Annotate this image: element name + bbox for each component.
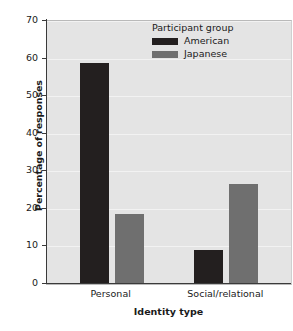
legend-swatch-japanese xyxy=(152,51,178,58)
y-tick-label: 50 xyxy=(0,90,38,100)
legend-label-american: American xyxy=(184,35,229,47)
y-tick-label: 10 xyxy=(0,240,38,250)
y-tick-mark xyxy=(42,20,46,21)
legend-item-japanese: Japanese xyxy=(152,48,262,60)
legend-title: Participant group xyxy=(152,22,262,34)
y-tick-label: 40 xyxy=(0,128,38,138)
x-tick-label: Social/relational xyxy=(155,288,293,299)
y-tick-mark xyxy=(42,283,46,284)
y-axis-line xyxy=(46,19,47,284)
y-tick-mark xyxy=(42,208,46,209)
y-tick-label: 60 xyxy=(0,53,38,63)
y-tick-label: 30 xyxy=(0,165,38,175)
y-tick-mark xyxy=(42,95,46,96)
bar-japanese-social-relational xyxy=(229,184,258,284)
legend: Participant group American Japanese xyxy=(152,22,262,61)
bar-japanese-personal xyxy=(115,214,144,284)
bar-chart: Percentage of responses 010203040506070 … xyxy=(0,0,293,331)
y-tick-mark xyxy=(42,58,46,59)
legend-swatch-american xyxy=(152,38,178,45)
y-tick-mark xyxy=(42,170,46,171)
legend-label-japanese: Japanese xyxy=(184,48,227,60)
y-tick-label: 20 xyxy=(0,203,38,213)
x-axis-title: Identity type xyxy=(46,306,291,317)
bar-american-personal xyxy=(80,63,109,284)
y-tick-label: 70 xyxy=(0,15,38,25)
legend-item-american: American xyxy=(152,35,262,47)
y-axis-title: Percentage of responses xyxy=(33,46,44,246)
y-tick-label: 0 xyxy=(0,278,38,288)
y-tick-mark xyxy=(42,133,46,134)
y-tick-mark xyxy=(42,245,46,246)
x-axis-line xyxy=(46,283,291,284)
bar-american-social-relational xyxy=(194,250,223,284)
